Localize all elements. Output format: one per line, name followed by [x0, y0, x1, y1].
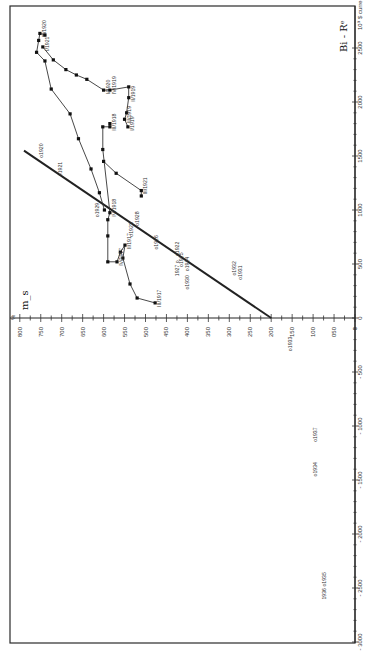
year-annotation: o1920	[38, 143, 44, 158]
year-annotation: o1921	[57, 162, 63, 177]
data-point	[35, 51, 38, 54]
y-axis-tick-label: 300	[226, 326, 232, 337]
rotated-line-chart: 25002000150010005000- 500- 1000- 1500- 2…	[0, 0, 373, 659]
year-annotation: o1937	[312, 427, 318, 442]
data-point	[140, 194, 143, 197]
y-axis-tick-label: 050	[331, 326, 337, 337]
data-point-label: III/1917	[156, 289, 162, 306]
data-point	[75, 73, 78, 76]
data-point	[102, 160, 105, 163]
year-annotation: o1933	[287, 337, 293, 352]
y-axis-tick-label: 800	[17, 326, 23, 337]
y-axis-tick-label: 700	[59, 326, 65, 337]
y-axis-tick-label: 350	[205, 326, 211, 337]
y-axis-unit: %	[10, 314, 16, 320]
data-point	[37, 39, 40, 42]
y-axis-tick-label: 200	[268, 326, 274, 337]
data-point	[85, 78, 88, 81]
x-axis-tick-label: 0	[357, 316, 363, 320]
year-annotation: o1931	[237, 265, 243, 280]
year-annotation: o1930	[184, 275, 190, 290]
series-group: III/1917II/1917IV/1917IV/1918III/1918	[101, 113, 162, 306]
year-annotation: 1927 o	[174, 260, 180, 276]
data-point-label: I/1919	[129, 116, 135, 131]
x-axis-unit: 10⁹ $ current	[357, 0, 363, 30]
data-point	[101, 148, 104, 151]
y-axis-title: m_s	[19, 290, 31, 310]
year-annotation: o1929	[94, 203, 100, 218]
data-point	[108, 122, 111, 125]
year-annotation: o1923	[128, 222, 134, 237]
data-point	[106, 260, 109, 263]
data-point	[98, 191, 101, 194]
y-axis-tick-label: 150	[289, 326, 295, 337]
data-point	[52, 58, 55, 61]
data-point	[128, 282, 131, 285]
data-point-label: II/1919	[130, 86, 136, 102]
data-point	[101, 125, 104, 128]
x-axis-tick-label: - 2000	[357, 525, 363, 543]
y-axis-tick-label: 650	[80, 326, 86, 337]
data-point	[115, 172, 118, 175]
data-point-label: IV/1917	[118, 248, 124, 266]
year-annotation: o1934	[312, 462, 318, 477]
data-point	[89, 167, 92, 170]
year-annotation: 1936 o1935	[321, 572, 327, 600]
y-axis-tick-label: 250	[247, 326, 253, 337]
axes: 25002000150010005000- 500- 1000- 1500- 2…	[10, 6, 363, 651]
data-point-label: I/1921	[44, 36, 50, 51]
series-line	[37, 33, 105, 210]
series-group: I/1921I/1920IV/1919II/1919III/1919I/1919	[41, 36, 135, 130]
data-point	[64, 68, 67, 71]
x-axis-tick-label: - 1000	[357, 417, 363, 435]
x-axis-tick-label: - 1500	[357, 471, 363, 489]
data-point	[68, 112, 71, 115]
x-axis-tick-label: 2500	[357, 41, 363, 55]
data-point	[136, 296, 139, 299]
x-axis-tick-label: 1500	[357, 149, 363, 163]
data-point-label: IV/1918	[111, 199, 117, 217]
x-axis-tick-label: - 2500	[357, 579, 363, 597]
data-point	[106, 218, 109, 221]
data-point	[103, 208, 106, 211]
data-point	[77, 137, 80, 140]
data-point-label: III/1921	[142, 177, 148, 194]
x-axis-tick-label: 2000	[357, 95, 363, 109]
year-annotation: o1924	[184, 257, 190, 272]
y-axis-tick-label: 500	[143, 326, 149, 337]
y-axis-tick-label: 750	[38, 326, 44, 337]
y-axis-tick-label: 600	[101, 326, 107, 337]
y-axis-tick-label: 400	[184, 326, 190, 337]
data-point-label: IV/1919	[111, 76, 117, 94]
x-axis-tick-label: 1000	[357, 203, 363, 217]
y-axis-tick-label: 550	[122, 326, 128, 337]
data-point	[43, 59, 46, 62]
data-point-label: III/1918	[111, 113, 117, 130]
x-axis-tick-label: 500	[357, 258, 363, 269]
point-annotations: o1920o1921o1929o1928o1923o1926o1922o1925…	[38, 143, 327, 599]
series-line	[104, 161, 142, 196]
data-point	[43, 33, 46, 36]
data-point	[50, 87, 53, 90]
data-point-label: I/1920	[105, 80, 111, 95]
x-axis-tick-label: - 3000	[357, 633, 363, 651]
y-axis-tick-label: 100	[310, 326, 316, 337]
series-group: III/1921	[102, 160, 148, 198]
year-annotation: o1928	[134, 211, 140, 226]
plot-frame	[10, 6, 355, 643]
year-annotation: o1926	[153, 235, 159, 250]
year-annotation: o1932	[231, 261, 237, 276]
y-axis-tick-label: 450	[163, 326, 169, 337]
data-series: III/1917II/1917IV/1917IV/1918III/1918III…	[35, 20, 162, 307]
x-axis-tick-label: - 500	[357, 365, 363, 379]
x-axis-title: Bi - Rᵉ	[338, 20, 349, 52]
data-point	[106, 234, 109, 237]
